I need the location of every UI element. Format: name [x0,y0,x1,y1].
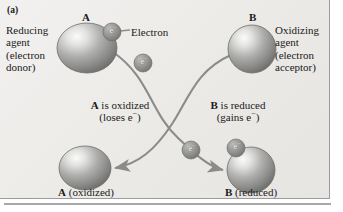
b-reduced-paren: ) [256,111,260,123]
b-reduced-bold: B [211,99,218,111]
electron-on-a [103,23,121,41]
sphere-a-top-letter: A [82,11,90,23]
a-oxidized-caption: A (oxidized) [40,186,132,198]
electron-arriving-b [227,139,245,157]
b-reduced-rest: is reduced [218,99,266,111]
a-is-oxidized-label: A is oxidized(loses e−) [72,99,168,124]
oxidizing-agent-label: Oxidizing agent (electron acceptor) [275,24,319,73]
redox-figure: e− e− e− e− (a) Reducing agent (electron… [0,0,343,212]
panel-tag: (a) [7,5,18,16]
b-is-reduced-label: B is reduced(gains e−) [190,99,286,124]
sphere-b-top-letter: B [249,11,256,23]
a-bottom-bold: A [58,186,66,198]
electron-callout-label: Electron [131,26,168,38]
electron-leader-line [120,30,130,31]
a-oxidized-loses: (loses e [99,111,132,123]
a-oxidized-rest: is oxidized [99,99,150,111]
electron-leaving-a [134,54,152,72]
a-bottom-rest: (oxidized) [66,186,114,198]
sphere-a-oxidized [59,146,111,190]
b-bottom-rest: (reduced) [232,186,277,198]
b-reduced-caption: B (reduced) [205,186,297,198]
reducing-agent-label: Reducing agent (electron donor) [6,24,48,73]
b-reduced-gains: (gains e [217,111,252,123]
sphere-b-top [228,25,276,73]
electron-midway-to-b [182,141,200,159]
a-oxidized-bold: A [91,99,99,111]
a-oxidized-paren: ) [137,111,141,123]
